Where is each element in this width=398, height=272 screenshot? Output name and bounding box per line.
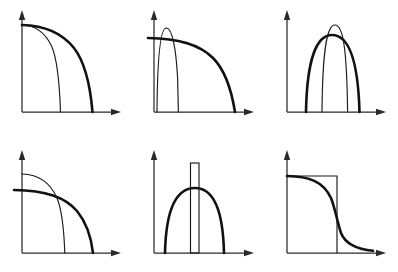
plot-panel-4 (0, 136, 133, 272)
x-axis-arrow-icon (376, 250, 386, 256)
x-axis-arrow-icon (376, 109, 386, 115)
narrow-dome-3 (322, 25, 348, 112)
step-function-6 (287, 176, 337, 253)
plot-canvas-2 (133, 0, 266, 136)
y-axis-arrow-icon (19, 150, 25, 160)
axes-2 (150, 10, 253, 115)
figure-root: Six comparison plots of broad versus nar… (0, 0, 398, 272)
plot-canvas-4 (0, 136, 133, 272)
plot-panel-6 (265, 136, 398, 272)
plot-panel-3 (265, 0, 398, 136)
broad-dome-5 (165, 188, 224, 253)
plot-canvas-1 (0, 0, 133, 136)
broad-curve-2 (148, 38, 235, 112)
x-axis-arrow-icon (111, 250, 121, 256)
plot-canvas-3 (265, 0, 398, 136)
panel-grid (0, 0, 398, 272)
y-axis-arrow-icon (284, 10, 290, 20)
broad-curve-4 (14, 190, 93, 253)
plot-canvas-5 (133, 136, 266, 272)
plot-panel-2 (133, 0, 266, 136)
y-axis-arrow-icon (150, 150, 156, 160)
delta-spike-5 (190, 163, 198, 253)
axes-6 (284, 150, 386, 256)
narrow-curve-4 (22, 174, 65, 253)
plot-panel-5 (133, 136, 266, 272)
x-axis-arrow-icon (244, 250, 254, 256)
x-axis-arrow-icon (244, 109, 254, 115)
y-axis-arrow-icon (284, 150, 290, 160)
smooth-sigmoid-6 (287, 176, 373, 251)
x-axis-arrow-icon (111, 109, 121, 115)
broad-dome-3 (306, 35, 359, 112)
axes-3 (284, 10, 386, 115)
y-axis-arrow-icon (19, 10, 25, 20)
plot-panel-1 (0, 0, 133, 136)
plot-canvas-6 (265, 136, 398, 272)
y-axis-arrow-icon (150, 10, 156, 20)
narrow-curve-1 (22, 25, 60, 112)
